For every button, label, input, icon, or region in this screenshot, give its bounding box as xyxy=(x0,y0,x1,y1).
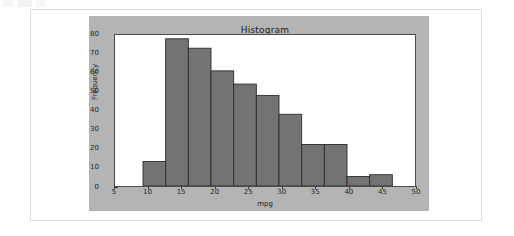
plot-area xyxy=(114,34,416,187)
x-axis-tick-mark xyxy=(382,186,383,189)
x-axis-tick-mark xyxy=(349,186,350,189)
histogram-bar xyxy=(188,48,211,186)
y-axis-tick-label: 60 xyxy=(59,69,99,76)
histogram-bar xyxy=(324,144,347,186)
matplotlib-figure-panel: Frequency 01020304050607080 Histogram 51… xyxy=(89,16,429,211)
y-axis-tick-label: 50 xyxy=(59,88,99,95)
histogram-bar xyxy=(234,84,257,186)
y-axis-tick-label: 10 xyxy=(59,164,99,171)
histogram-bar xyxy=(347,177,370,186)
x-axis-tick-label: 20 xyxy=(202,189,228,196)
histogram-bars xyxy=(115,35,415,186)
x-axis-tick-mark xyxy=(416,186,417,189)
x-axis-tick-label: 45 xyxy=(369,189,395,196)
x-axis-tick-label: 5 xyxy=(101,189,127,196)
figure-card: Frequency 01020304050607080 Histogram 51… xyxy=(30,9,482,221)
y-axis-tick-label: 20 xyxy=(59,145,99,152)
histogram-bar xyxy=(143,161,166,186)
histogram-bar xyxy=(211,71,234,186)
histogram-bar xyxy=(256,95,279,186)
x-axis-tick-mark xyxy=(148,186,149,189)
x-axis-tick-label: 40 xyxy=(336,189,362,196)
x-axis-label: mpg xyxy=(114,200,416,208)
y-axis-tick-label: 40 xyxy=(59,107,99,114)
x-axis-tick-label: 50 xyxy=(403,189,429,196)
x-axis-tick-label: 10 xyxy=(135,189,161,196)
histogram-bar xyxy=(302,144,325,186)
x-axis-tick-mark xyxy=(248,186,249,189)
histogram-bar xyxy=(166,39,189,186)
x-axis-tick-mark xyxy=(215,186,216,189)
histogram-svg xyxy=(115,35,415,186)
x-axis-tick-label: 25 xyxy=(235,189,261,196)
cropped-page-artifact xyxy=(2,0,58,7)
x-axis-tick-label: 30 xyxy=(269,189,295,196)
x-axis-tick-label: 35 xyxy=(302,189,328,196)
y-axis-tick-label: 0 xyxy=(59,184,99,191)
y-axis-tick-label: 70 xyxy=(59,50,99,57)
x-axis-tick-mark xyxy=(315,186,316,189)
x-axis-tick-mark xyxy=(181,186,182,189)
histogram-bar xyxy=(279,114,302,186)
y-axis-tick-label: 80 xyxy=(59,31,99,38)
histogram-bar xyxy=(370,175,393,186)
x-axis-tick-label: 15 xyxy=(168,189,194,196)
x-axis-tick-mark xyxy=(114,186,115,189)
x-axis-tick-mark xyxy=(282,186,283,189)
y-axis-tick-label: 30 xyxy=(59,126,99,133)
